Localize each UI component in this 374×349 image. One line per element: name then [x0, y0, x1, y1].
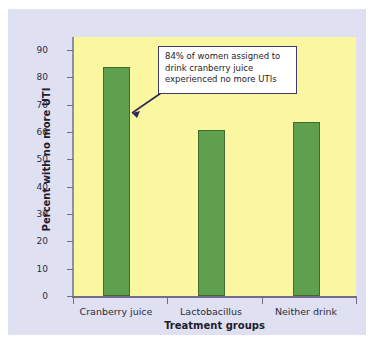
y-tick	[67, 241, 73, 242]
y-tick	[67, 187, 73, 188]
annotation-callout: 84% of women assigned to drink cranberry…	[158, 46, 297, 94]
y-tick	[67, 269, 73, 270]
y-tick	[67, 214, 73, 215]
y-tick	[67, 296, 73, 297]
x-tick-label-lactobacillus: Lactobacillus	[156, 306, 266, 317]
y-tick	[67, 105, 73, 106]
y-axis-title: Percent with no more UTI	[41, 45, 52, 275]
annotation-line-3: experienced no more UTIs	[165, 74, 291, 86]
x-tick-label-cranberry-juice: Cranberry juice	[61, 306, 171, 317]
y-tick-label: 0	[8, 292, 48, 301]
annotation-arrow-icon	[118, 89, 168, 124]
x-axis-line	[72, 296, 357, 298]
annotation-line-1: 84% of women assigned to	[165, 51, 291, 63]
bar-lactobacillus	[198, 130, 225, 296]
y-tick	[67, 50, 73, 51]
y-tick	[67, 159, 73, 160]
bar-neither-drink	[293, 122, 320, 296]
chart-figure: 0 10 20 30 40 50 60 70 80 90 Cranberry j…	[0, 0, 374, 349]
y-axis-line	[72, 37, 74, 297]
annotation-line-2: drink cranberry juice	[165, 63, 291, 75]
x-tick	[262, 298, 263, 304]
x-axis-title: Treatment groups	[73, 320, 356, 331]
y-tick	[67, 77, 73, 78]
x-tick	[356, 298, 357, 304]
x-tick-label-neither-drink: Neither drink	[251, 306, 361, 317]
figure-panel: 0 10 20 30 40 50 60 70 80 90 Cranberry j…	[8, 9, 366, 335]
y-tick	[67, 132, 73, 133]
x-tick	[167, 298, 168, 304]
x-tick	[73, 298, 74, 304]
